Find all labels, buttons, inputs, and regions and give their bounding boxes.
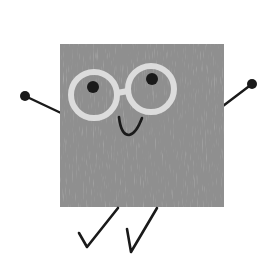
- legs: [79, 208, 157, 252]
- arm-left: [20, 91, 61, 113]
- left-eye-icon: [87, 81, 99, 93]
- hand-left-icon: [20, 91, 30, 101]
- checkmark-leg-icon: [79, 208, 118, 247]
- character-illustration: [0, 0, 277, 267]
- arm-right: [219, 79, 257, 109]
- right-eye-icon: [146, 73, 158, 85]
- checkmark-leg-icon: [127, 208, 157, 252]
- illustration: square character with glasses: [0, 0, 277, 267]
- hand-right-icon: [247, 79, 257, 89]
